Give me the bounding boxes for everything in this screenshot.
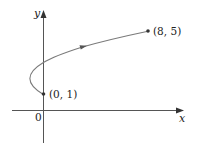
point-end-label: (8, 5) xyxy=(153,25,181,37)
parametric-curve-figure: y x 0 (0, 1) (8, 5) xyxy=(0,0,198,151)
y-axis xyxy=(41,10,47,143)
parametric-curve xyxy=(30,31,148,94)
y-axis-label: y xyxy=(33,7,41,20)
origin-label: 0 xyxy=(35,111,42,123)
direction-arrow-icon xyxy=(80,45,88,49)
point-end xyxy=(146,29,150,33)
point-start-label: (0, 1) xyxy=(49,88,77,100)
x-axis-label: x xyxy=(179,112,186,125)
point-start xyxy=(42,92,46,96)
y-axis-arrow-icon xyxy=(41,10,47,18)
